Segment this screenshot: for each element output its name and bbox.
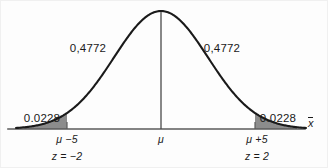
normal-distribution-figure: 0,4772 0,4772 0.0228 0.0228 μ −5 z = −2 … <box>0 0 328 168</box>
right-tail-probability-label: 0.0228 <box>260 113 296 125</box>
tick-label-mean: μ <box>158 134 164 145</box>
tick-label-lower-zscore: z = −2 <box>52 151 82 162</box>
left-tail-probability-label: 0.0228 <box>24 113 60 125</box>
left-half-probability-label: 0,4772 <box>70 43 106 55</box>
right-half-probability-label: 0,4772 <box>204 43 240 55</box>
x-axis-label: x <box>308 118 314 129</box>
x-bar-symbol: x <box>308 118 314 129</box>
tick-label-upper-value: μ +5 <box>246 134 267 145</box>
tick-label-lower-value: μ −5 <box>56 134 77 145</box>
tick-label-upper-zscore: z = 2 <box>245 151 269 162</box>
